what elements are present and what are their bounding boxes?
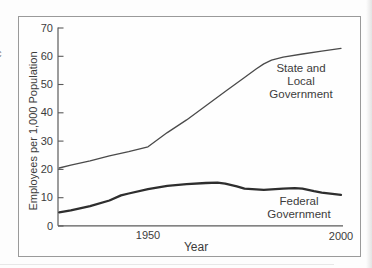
series-label-state-local-line1: State and Local (266, 62, 337, 88)
edge-artifact-glyph: c (0, 47, 2, 59)
y-tick-label-70: 70 (29, 22, 53, 34)
x-axis-title: Year (184, 240, 208, 254)
chart-plot-area (0, 0, 372, 268)
x-tick-label-2000: 2000 (329, 230, 353, 242)
series-label-state-local: State and Local Government (266, 62, 337, 101)
y-tick-label-0: 0 (29, 220, 53, 232)
y-axis-ticks (58, 28, 64, 226)
series-label-federal-line2: Government (267, 208, 330, 221)
figure: 010203040506070 Employees per 1,000 Popu… (0, 0, 372, 268)
series-label-state-local-line2: Government (266, 88, 337, 101)
series-label-federal: Federal Government (267, 195, 330, 221)
series-label-federal-line1: Federal (267, 195, 330, 208)
y-axis-title: Employees per 1,000 Population (27, 52, 39, 211)
x-tick-label-1950: 1950 (136, 229, 160, 241)
